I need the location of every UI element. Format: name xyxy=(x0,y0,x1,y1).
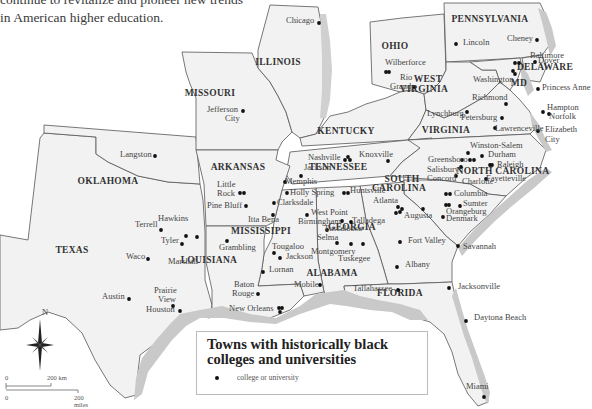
city-label: Tyler xyxy=(161,235,179,245)
college-marker-icon xyxy=(285,191,289,195)
city-label: Denmark xyxy=(446,213,478,223)
college-marker-icon xyxy=(541,110,545,114)
college-marker-icon xyxy=(127,297,131,301)
college-marker-icon xyxy=(317,21,321,25)
city-label: Clarksdale xyxy=(277,197,314,207)
college-marker-icon xyxy=(480,154,484,158)
city-label: Miami xyxy=(466,381,489,391)
college-marker-icon xyxy=(513,72,517,76)
city-label: Jackson xyxy=(286,251,314,261)
city-label: Norfolk xyxy=(549,111,577,121)
college-marker-icon xyxy=(447,286,451,290)
college-marker-icon xyxy=(280,306,284,310)
college-marker-icon xyxy=(272,251,276,255)
college-marker-icon xyxy=(394,211,398,215)
compass-north-label: N xyxy=(42,307,48,317)
state-label: OHIO xyxy=(381,41,408,51)
city-label: Lynchburg xyxy=(427,108,464,118)
college-dot-icon xyxy=(215,376,219,380)
college-marker-icon xyxy=(513,61,517,65)
college-marker-icon xyxy=(395,265,399,269)
state-label: OKLAHOMA xyxy=(78,176,139,186)
college-marker-icon xyxy=(464,319,468,323)
college-marker-icon xyxy=(195,235,199,239)
college-marker-icon xyxy=(343,158,347,162)
college-marker-icon xyxy=(396,288,400,292)
college-marker-icon xyxy=(398,240,402,244)
city-label: Fayetteville xyxy=(486,173,526,183)
college-marker-icon xyxy=(472,158,476,162)
city-label: Concord xyxy=(427,173,457,183)
city-label: City xyxy=(545,134,560,144)
college-marker-icon xyxy=(242,191,246,195)
city-label: Savannah xyxy=(463,241,497,251)
city-label: Columbia xyxy=(454,188,488,198)
city-label: Knoxville xyxy=(359,149,393,159)
city-label: Mobile xyxy=(294,279,319,289)
scale-km-label: 200 km xyxy=(47,374,67,381)
city-label: City xyxy=(225,113,240,123)
college-marker-icon xyxy=(159,228,163,232)
college-marker-icon xyxy=(533,60,537,64)
city-label: Atlanta xyxy=(373,195,398,205)
city-label: Chicago xyxy=(286,15,314,25)
state-label: VIRGINIA xyxy=(422,125,470,135)
state-label: TEXAS xyxy=(55,245,88,255)
college-marker-icon xyxy=(535,38,539,42)
city-label: Marshall xyxy=(168,256,199,266)
college-marker-icon xyxy=(441,215,445,219)
state-label: ILLINOIS xyxy=(255,57,301,67)
city-label: Itta Bena xyxy=(248,214,279,224)
state-label: KENTUCKY xyxy=(317,126,374,136)
college-marker-icon xyxy=(444,192,448,196)
city-label: Durham xyxy=(488,149,516,159)
city-label: Wilberforce xyxy=(385,57,426,67)
college-marker-icon xyxy=(146,257,150,261)
college-marker-icon xyxy=(278,310,282,314)
college-marker-icon xyxy=(482,395,486,399)
state-label: ALABAMA xyxy=(306,268,357,278)
legend-item-label: college or university xyxy=(237,373,299,382)
city-label: Dover xyxy=(538,55,559,65)
city-label: Princess Anne xyxy=(542,82,591,92)
college-marker-icon xyxy=(456,244,460,248)
city-label: Houston xyxy=(146,304,176,314)
city-label: Richmond xyxy=(472,92,508,102)
city-label: Jackson xyxy=(304,162,332,172)
college-marker-icon xyxy=(536,87,540,91)
city-label: Lornan xyxy=(269,264,294,274)
college-marker-icon xyxy=(396,205,400,209)
city-label: Langston xyxy=(120,149,152,159)
city-label: Nashville xyxy=(308,152,341,162)
college-marker-icon xyxy=(517,61,521,65)
college-marker-icon xyxy=(318,283,322,287)
city-label: Greensboro xyxy=(428,154,468,164)
state-label: ARKANSAS xyxy=(211,162,266,172)
college-marker-icon xyxy=(278,256,282,260)
state-label: PENNSYLVANIA xyxy=(452,14,529,24)
city-label: Albany xyxy=(405,259,431,269)
city-label: Cheney xyxy=(507,33,534,43)
college-marker-icon xyxy=(500,116,504,120)
college-marker-icon xyxy=(180,242,184,246)
city-label: Lincoln xyxy=(463,37,490,47)
college-marker-icon xyxy=(272,201,276,205)
legend-item: college or university xyxy=(207,373,417,382)
college-marker-icon xyxy=(184,234,188,238)
scale-mi-label: 200 miles xyxy=(74,394,88,408)
city-label: Petersburg xyxy=(461,112,498,122)
college-marker-icon xyxy=(454,42,458,46)
city-label: Fort Valley xyxy=(408,235,447,245)
college-marker-icon xyxy=(348,158,352,162)
state-label: MISSISSIPPI xyxy=(231,226,291,236)
city-label: Tougaloo xyxy=(272,241,304,251)
city-label: Hawkins xyxy=(158,213,188,223)
legend-title: Towns with historically black colleges a… xyxy=(207,337,417,367)
college-marker-icon xyxy=(238,191,242,195)
city-label: Lawrenceville xyxy=(495,123,544,133)
city-label: Tallahassee xyxy=(353,283,392,293)
scale-mi-zero: 0 xyxy=(5,394,8,401)
city-label: Elizabeth xyxy=(545,124,578,134)
city-label: Grande xyxy=(390,81,415,91)
college-marker-icon xyxy=(387,70,391,74)
